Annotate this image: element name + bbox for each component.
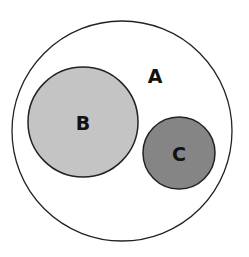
set-c-label: C: [172, 143, 186, 165]
set-a-label: A: [148, 65, 163, 87]
set-b-label: B: [76, 112, 90, 134]
set-diagram: A B C: [0, 0, 249, 257]
